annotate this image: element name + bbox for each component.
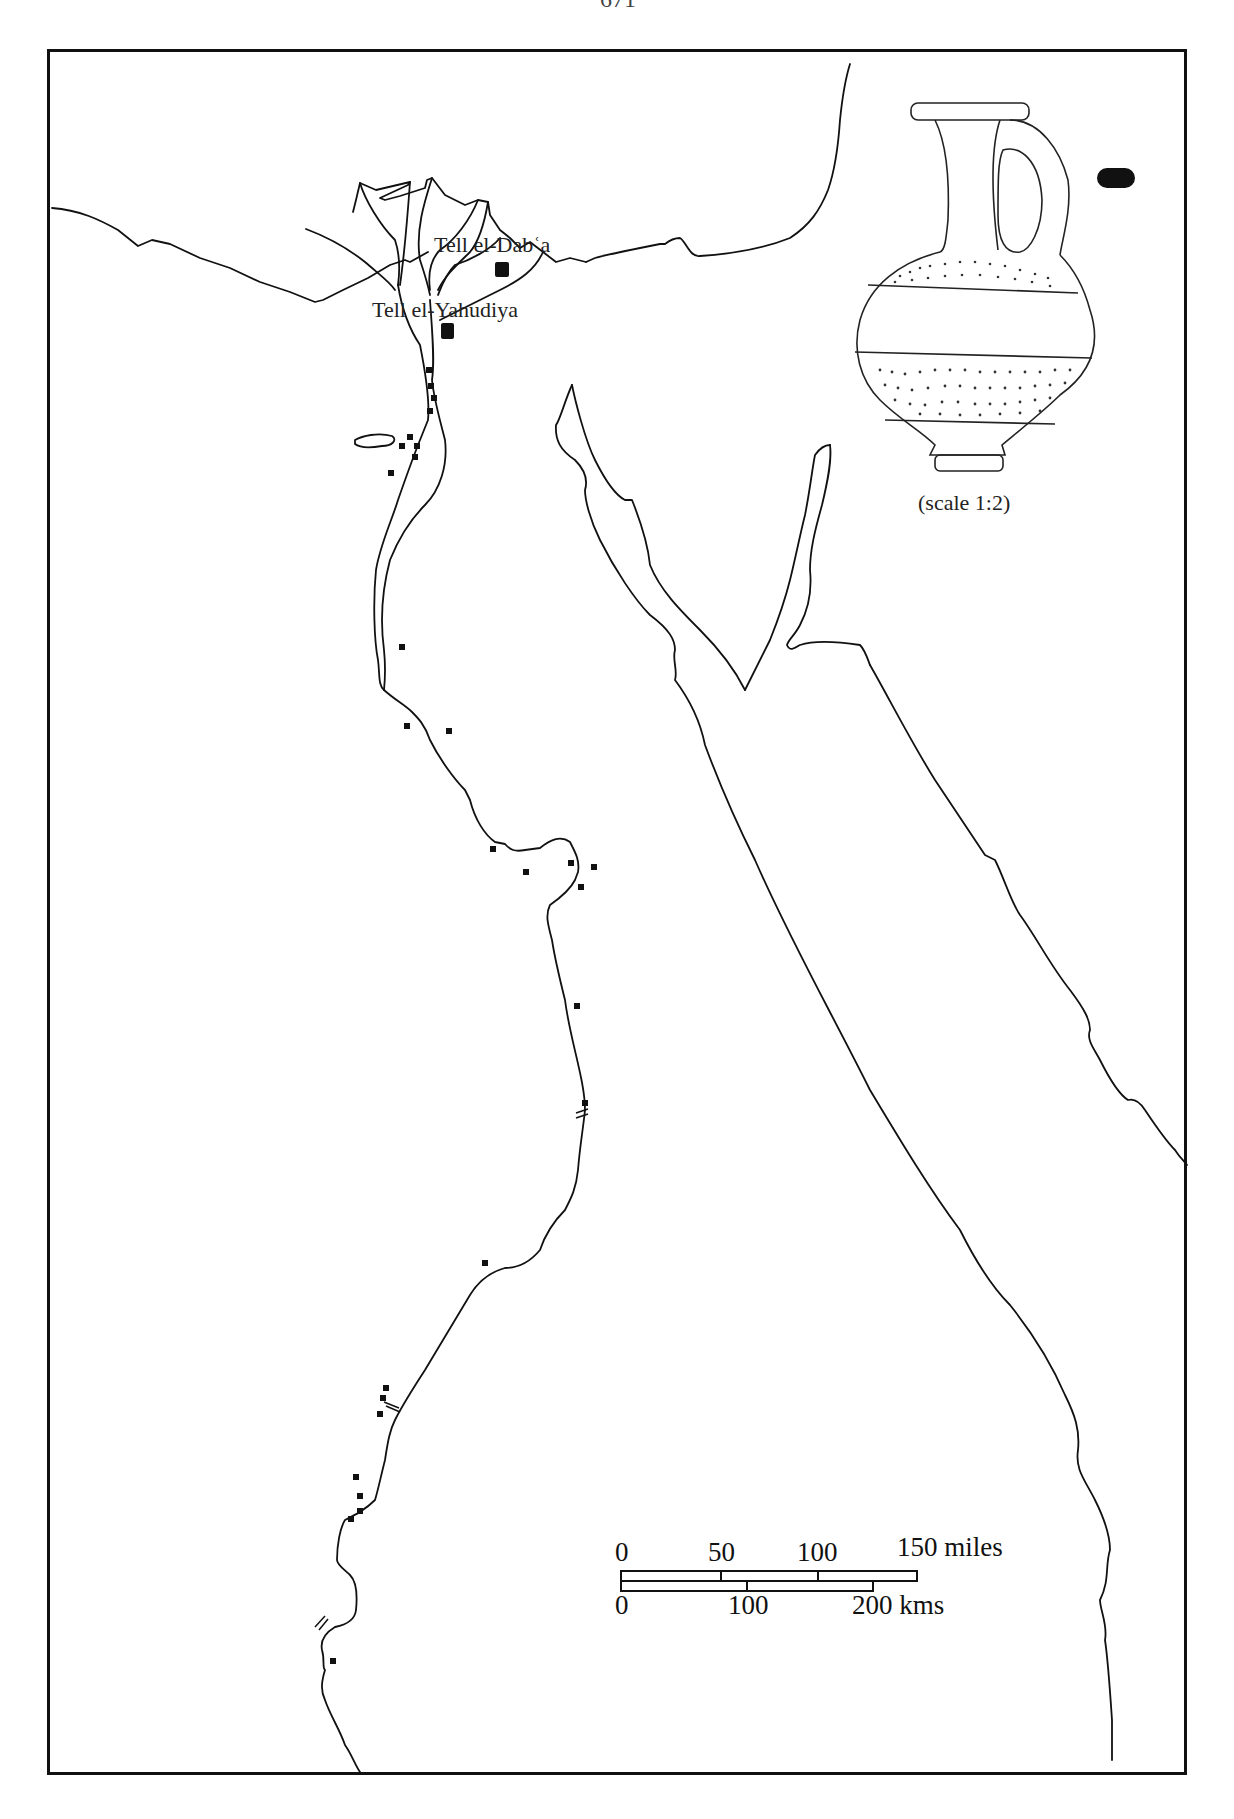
site-label-tell-el-daba: Tell el-Dabʿa — [434, 232, 550, 258]
juglet-scale-caption: (scale 1:2) — [918, 490, 1010, 516]
nile-main-south — [322, 690, 585, 1772]
sinai-north-coast — [586, 64, 850, 262]
scale-miles-150: 150 miles — [897, 1532, 1003, 1563]
site-marker-tell-el-daba — [495, 262, 509, 277]
scale-kms-100: 100 — [728, 1590, 769, 1621]
site-label-tell-el-yahudiya: Tell el-Yahudiya — [372, 297, 518, 323]
handle-section-icon — [1097, 168, 1135, 188]
gulf-of-aqaba-east — [787, 445, 870, 665]
juglet-dot-pattern — [879, 261, 1072, 417]
scale-miles-0: 0 — [615, 1537, 629, 1568]
nile-east-bank — [382, 300, 446, 690]
faiyum-lake — [355, 434, 394, 447]
scale-kms-0: 0 — [615, 1590, 629, 1621]
scale-bar — [621, 1571, 917, 1591]
scale-miles-100: 100 — [797, 1537, 838, 1568]
gulf-of-aqaba-west — [745, 445, 830, 690]
mediterranean-coast-west — [52, 208, 428, 302]
site-marker-tell-el-yahudiya — [441, 323, 454, 339]
scale-miles-50: 50 — [708, 1537, 735, 1568]
scale-kms-200: 200 kms — [852, 1590, 944, 1621]
juglet-drawing — [855, 103, 1095, 471]
nile-branch-2 — [400, 182, 410, 285]
arabian-coast — [870, 665, 1187, 1165]
cataract-markers — [315, 1109, 588, 1630]
find-spot-markers — [330, 367, 597, 1664]
